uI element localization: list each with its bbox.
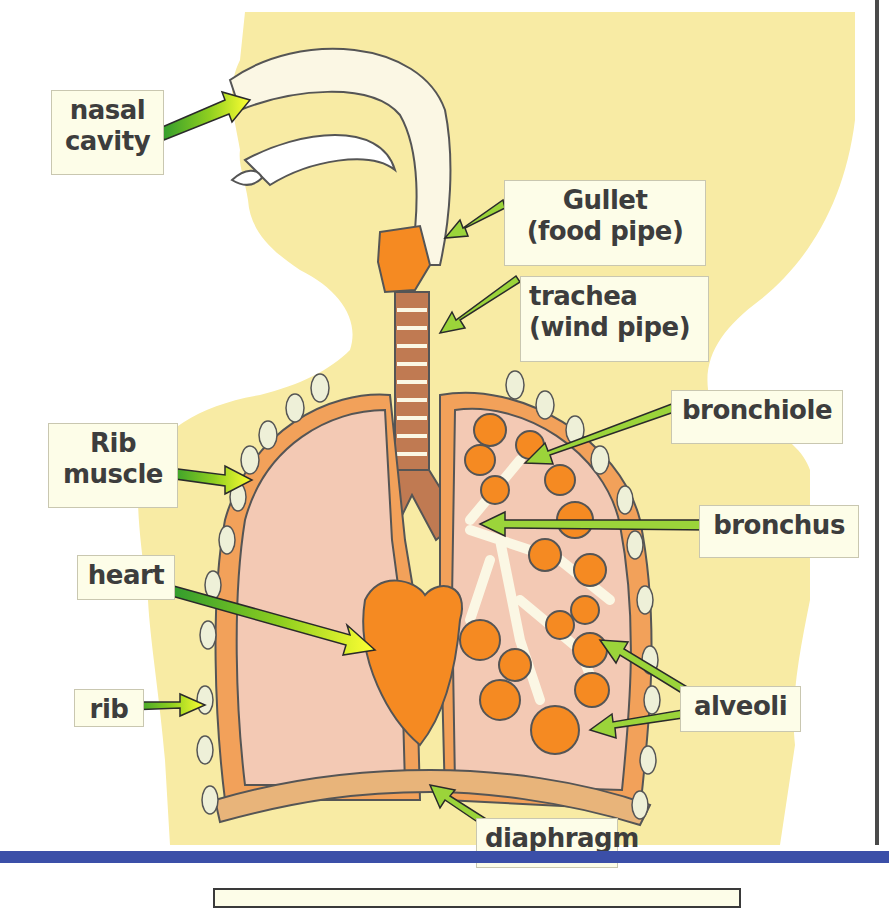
label-alveoli: alveoli (680, 686, 801, 732)
label-line: (wind pipe) (529, 312, 700, 343)
label-gullet: Gullet (food pipe) (504, 180, 706, 266)
label-line: Gullet (513, 185, 697, 216)
label-line: Rib (57, 428, 169, 459)
label-line: cavity (60, 126, 155, 157)
label-line: diaphragm (485, 823, 609, 854)
blue-divider-bar (0, 851, 889, 863)
label-line: muscle (57, 459, 169, 490)
arrow-nasal-cavity (160, 92, 250, 140)
right-border-rule (875, 0, 879, 845)
label-rib: rib (74, 689, 144, 727)
label-line: heart (86, 560, 166, 591)
label-line: bronchiole (680, 395, 834, 426)
label-trachea: trachea (wind pipe) (520, 276, 709, 362)
label-rib-muscle: Rib muscle (48, 423, 178, 508)
label-line: bronchus (708, 510, 850, 541)
label-bronchiole: bronchiole (671, 390, 843, 444)
label-line: alveoli (689, 691, 792, 722)
label-bronchus: bronchus (699, 505, 859, 558)
label-line: nasal (60, 95, 155, 126)
bottom-caption-box (213, 888, 741, 908)
label-line: trachea (529, 281, 700, 312)
label-nasal-cavity: nasal cavity (51, 90, 164, 175)
label-heart: heart (77, 555, 175, 600)
label-line: (food pipe) (513, 216, 697, 247)
label-line: rib (83, 694, 135, 725)
